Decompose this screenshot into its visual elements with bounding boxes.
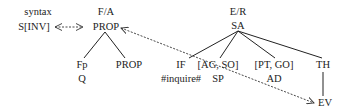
er-child-ad: AD bbox=[266, 73, 281, 85]
branch-prop bbox=[105, 32, 125, 58]
er-child-ev: EV bbox=[318, 97, 332, 109]
syntax-title: syntax bbox=[24, 6, 51, 18]
fa-child-fp: Fp bbox=[76, 59, 87, 71]
fa-child-q: Q bbox=[78, 73, 86, 85]
fa-label: PROP bbox=[93, 21, 119, 33]
diagram-lines bbox=[0, 0, 350, 111]
diagram: syntax S[INV] F/A PROP E/R SA Fp Q PROP … bbox=[0, 0, 350, 111]
er-label: SA bbox=[231, 20, 244, 32]
branch-th bbox=[238, 31, 322, 58]
er-child-sp: SP bbox=[212, 73, 224, 85]
branch-if bbox=[189, 31, 238, 58]
er-title: E/R bbox=[230, 6, 246, 18]
fa-child-prop: PROP bbox=[116, 59, 142, 71]
branch-ptgo bbox=[238, 31, 275, 58]
er-child-agso: [AG, SO] bbox=[198, 59, 239, 71]
branch-agso bbox=[220, 31, 238, 58]
fa-title: F/A bbox=[98, 6, 114, 18]
er-child-th: TH bbox=[316, 59, 330, 71]
er-child-ptgo: [PT, GO] bbox=[255, 59, 294, 71]
syntax-label: S[INV] bbox=[18, 21, 50, 33]
branch-fp bbox=[84, 32, 105, 58]
er-child-if: IF bbox=[176, 59, 185, 71]
er-child-inquire: #inquire# bbox=[161, 73, 201, 85]
